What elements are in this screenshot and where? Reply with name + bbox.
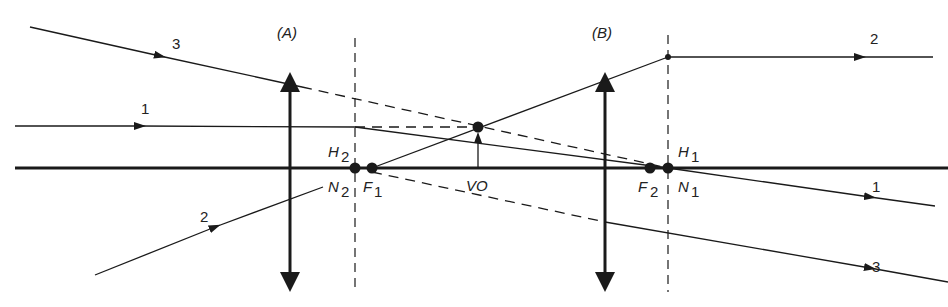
label-h2: H 2 — [328, 143, 349, 165]
svg-text:1: 1 — [691, 148, 699, 165]
svg-text:2: 2 — [341, 183, 349, 200]
label-n1: N 1 — [678, 178, 699, 200]
lens-a — [280, 72, 300, 292]
svg-text:H: H — [678, 143, 689, 160]
ray-3 — [30, 27, 948, 282]
ray-1-out-label: 1 — [872, 178, 880, 195]
ray-3-in-label: 3 — [172, 35, 180, 52]
point-vo — [473, 122, 484, 133]
label-f1: F 1 — [363, 178, 382, 200]
svg-text:1: 1 — [691, 183, 699, 200]
point-f2 — [645, 163, 656, 174]
label-n2: N 2 — [328, 178, 349, 200]
point-h1-ray2 — [665, 54, 671, 60]
point-n2-h2 — [350, 163, 361, 174]
label-h1: H 1 — [678, 143, 699, 165]
ray-1-in-label: 1 — [141, 100, 149, 117]
ray-2-out-label: 2 — [870, 30, 878, 47]
svg-text:1: 1 — [374, 183, 382, 200]
svg-text:H: H — [328, 143, 339, 160]
svg-text:2: 2 — [341, 148, 349, 165]
svg-text:2: 2 — [650, 183, 658, 200]
ray-3-out-label: 3 — [872, 258, 880, 275]
lens-b-bottom-arrow-icon — [595, 272, 615, 292]
virtual-object — [474, 132, 482, 168]
label-vo: VO — [466, 177, 488, 194]
lens-a-top-arrow-icon — [280, 72, 300, 92]
svg-text:N: N — [328, 178, 339, 195]
lens-a-label: (A) — [277, 24, 297, 41]
svg-text:F: F — [363, 178, 373, 195]
optics-diagram: (A) (B) 3 1 2 2 1 3 H 2 N 2 F 1 VO F 2 H… — [0, 0, 948, 307]
lens-b-top-arrow-icon — [595, 72, 615, 92]
ray-2-in-label: 2 — [200, 208, 208, 225]
svg-text:F: F — [638, 178, 648, 195]
point-n1-h1 — [663, 163, 674, 174]
svg-text:N: N — [678, 178, 689, 195]
diagram-canvas: (A) (B) 3 1 2 2 1 3 H 2 N 2 F 1 VO F 2 H… — [0, 0, 948, 307]
vo-arrow-icon — [474, 132, 482, 143]
lens-b — [595, 72, 615, 292]
point-f1 — [367, 163, 378, 174]
lens-b-label: (B) — [592, 24, 612, 41]
label-f2: F 2 — [638, 178, 658, 200]
lens-a-bottom-arrow-icon — [280, 272, 300, 292]
ray-2 — [95, 57, 933, 275]
